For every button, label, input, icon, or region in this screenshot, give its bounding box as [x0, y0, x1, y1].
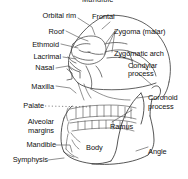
leader-frontal [102, 22, 110, 29]
label-zygoma-malar: Zygoma (malar) [114, 28, 165, 36]
label-condylar-process-line2: process [128, 70, 154, 78]
leader-ethmoid [61, 44, 78, 48]
leader-lines [48, 18, 152, 160]
label-frontal: Frontal [92, 13, 115, 21]
anatomy-figure: Mandible [0, 0, 188, 179]
leader-mandible [56, 145, 72, 152]
label-symphysis: Symphysis [0, 156, 48, 164]
leader-maxilla [56, 86, 76, 93]
label-nasal: Nasal [4, 64, 54, 72]
maxilla-and-cheek-lines [78, 83, 130, 100]
label-angle: Angle [148, 148, 167, 156]
upper-teeth-row [67, 105, 137, 121]
label-alveolar-margins-line2: margins [2, 127, 54, 135]
label-ethmoid: Ethmoid [4, 41, 59, 49]
label-coronoid-process-line2: process [148, 103, 174, 111]
label-ramus: Ramus [110, 123, 133, 131]
label-palate: Palate [4, 102, 44, 110]
label-orbital-rim: Orbital rim [4, 12, 76, 20]
label-mandible: Mandible [2, 141, 56, 149]
leader-symphysis [48, 158, 64, 160]
label-roof: Roof [4, 28, 64, 36]
label-lacrimal: Lacrimal [4, 53, 61, 61]
orbit-and-nasal-detail [67, 36, 106, 89]
leader-angle [136, 147, 148, 151]
label-zygomatic-arch: Zygomatic arch [114, 50, 164, 58]
label-body: Body [86, 144, 103, 152]
label-maxilla: Maxilla [4, 83, 54, 91]
